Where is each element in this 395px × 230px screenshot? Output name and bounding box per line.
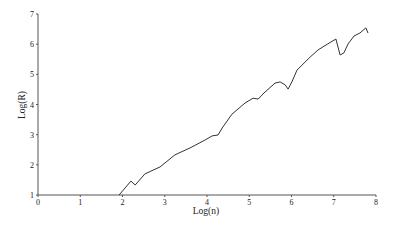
x-axis-label: Log(n)	[193, 206, 219, 217]
x-tick-label: 8	[374, 198, 378, 207]
y-tick-label: 7	[30, 10, 34, 19]
x-tick-label: 3	[163, 198, 167, 207]
x-tick-label: 5	[247, 198, 251, 207]
y-axis: 1234567	[30, 10, 38, 200]
y-tick-label: 1	[30, 191, 34, 200]
y-tick-label: 6	[30, 40, 34, 49]
x-tick-label: 1	[78, 198, 82, 207]
y-tick-label: 2	[30, 161, 34, 170]
x-tick-label: 2	[121, 198, 125, 207]
y-tick-label: 5	[30, 70, 34, 79]
y-tick-label: 3	[30, 131, 34, 140]
y-tick-label: 4	[30, 101, 34, 110]
chart: 1234567 012345678 Log(n) Log(R)	[0, 0, 395, 230]
y-axis-label: Log(R)	[17, 91, 28, 119]
x-tick-label: 0	[36, 198, 40, 207]
x-tick-label: 7	[332, 198, 336, 207]
data-line	[119, 28, 368, 195]
x-tick-label: 6	[290, 198, 294, 207]
